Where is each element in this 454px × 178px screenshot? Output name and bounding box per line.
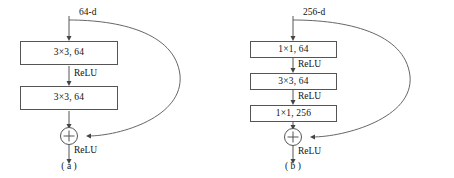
conv-box-2: 3×3, 64 bbox=[250, 73, 337, 90]
panel-a-caption: ( a ) bbox=[49, 162, 89, 172]
relu-label-1: ReLU bbox=[298, 60, 321, 70]
conv-box-3: 1×1, 256 bbox=[250, 105, 337, 122]
input-dimension-label: 64-d bbox=[79, 8, 96, 18]
relu-label-2: ReLU bbox=[298, 92, 321, 102]
conv-box-1: 1×1, 64 bbox=[250, 41, 337, 58]
conv-box-2: 3×3, 64 bbox=[20, 86, 118, 110]
panel-a-basic-residual-block: 64-d 3×3, 64 ReLU 3×3, 64 ReLU ( a ) bbox=[0, 0, 227, 178]
input-dimension-label: 256-d bbox=[303, 8, 325, 18]
residual-block-figure: 64-d 3×3, 64 ReLU 3×3, 64 ReLU ( a ) bbox=[0, 0, 454, 178]
panel-b-caption: ( b ) bbox=[273, 162, 313, 172]
relu-label-1: ReLU bbox=[74, 69, 97, 79]
relu-label-2: ReLU bbox=[74, 146, 97, 156]
conv-box-1: 3×3, 64 bbox=[20, 41, 118, 65]
panel-b-bottleneck-residual-block: 256-d 1×1, 64 ReLU 3×3, 64 ReLU 1×1, 256… bbox=[227, 0, 454, 178]
relu-label-3: ReLU bbox=[298, 147, 321, 157]
